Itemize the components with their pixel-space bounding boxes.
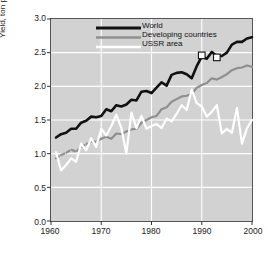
legend-label: USSR area	[142, 39, 182, 48]
data-series-group	[56, 37, 252, 170]
legend-label: Developing countries	[142, 30, 217, 39]
chart-container: 3.0 2.5 2.0 1.5 1.0 0.5 0.0 Yield, ton p…	[0, 0, 268, 255]
gridlines	[51, 19, 252, 221]
chart-graphics	[0, 0, 268, 255]
axis-tick-marks	[47, 19, 252, 225]
legend-label: World	[142, 21, 163, 30]
legend	[96, 28, 141, 47]
